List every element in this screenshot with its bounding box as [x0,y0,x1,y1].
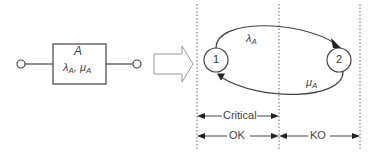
mu-subscript: A [312,81,317,90]
transform-arrow-icon [154,46,193,82]
transition-lambda [216,26,336,48]
component-rates: λA, μA [63,61,91,75]
critical-label: Critical [223,109,257,121]
mu-subscript: A [86,66,91,75]
lambda-subscript: A [251,37,256,46]
ok-label: OK [229,129,245,141]
lambda-label: λA [246,32,257,46]
output-terminal-icon [133,60,141,68]
mu-label: μA [306,76,317,90]
arrowhead-lambda-icon [331,38,341,48]
input-terminal-icon [17,60,25,68]
transition-mu [221,72,343,94]
component-name: A [74,44,82,58]
ko-label: KO [310,129,326,141]
state-1-label: 1 [206,53,226,65]
state-2-label: 2 [329,53,349,65]
